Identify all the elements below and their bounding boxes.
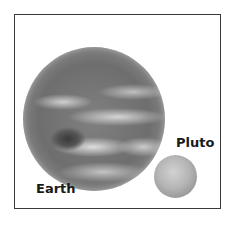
- pluto-image: [154, 155, 197, 198]
- earth-image: [23, 47, 165, 191]
- earth-label: Earth: [36, 181, 76, 196]
- pluto-label: Pluto: [176, 135, 214, 150]
